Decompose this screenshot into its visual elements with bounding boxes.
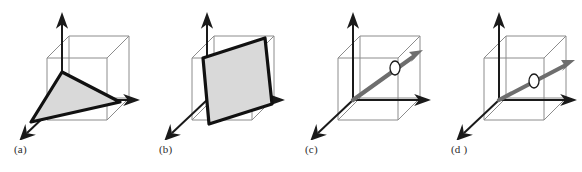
panel-d: (d ) — [437, 0, 582, 172]
panel-b: (b) — [145, 0, 290, 172]
cube-connector-br — [544, 98, 566, 120]
cube-connector-tl — [338, 36, 360, 58]
panel-c-diagram — [291, 0, 436, 140]
panel-a-diagram — [0, 0, 145, 140]
cube-wireframe-d — [484, 36, 566, 120]
cube-connector-tr — [544, 36, 566, 58]
cube-wireframe-c — [338, 36, 420, 120]
cube-connector-tr — [107, 36, 129, 58]
cube-connector-br — [398, 98, 420, 120]
cube-connector-tl — [484, 36, 506, 58]
cube-connector-bl — [484, 98, 506, 120]
y-axis — [464, 100, 499, 133]
shaded-parallelogram — [203, 38, 272, 124]
panel-b-diagram — [145, 0, 290, 140]
cube-connector-tl — [47, 36, 69, 58]
figure-root: (a) (b) — [0, 0, 582, 172]
panel-d-caption: (d ) — [451, 142, 467, 156]
panel-c: (c) — [291, 0, 436, 172]
panel-a-caption: (a) — [14, 142, 27, 156]
cube-connector-bl — [338, 98, 360, 120]
y-axis — [172, 100, 207, 133]
intersection-marker-icon — [529, 74, 539, 88]
panel-a: (a) — [0, 0, 145, 172]
panel-c-caption: (c) — [305, 142, 318, 156]
intersection-marker-icon — [390, 61, 400, 75]
y-axis — [318, 100, 353, 133]
panel-d-diagram — [437, 0, 582, 140]
panel-b-caption: (b) — [159, 142, 172, 156]
